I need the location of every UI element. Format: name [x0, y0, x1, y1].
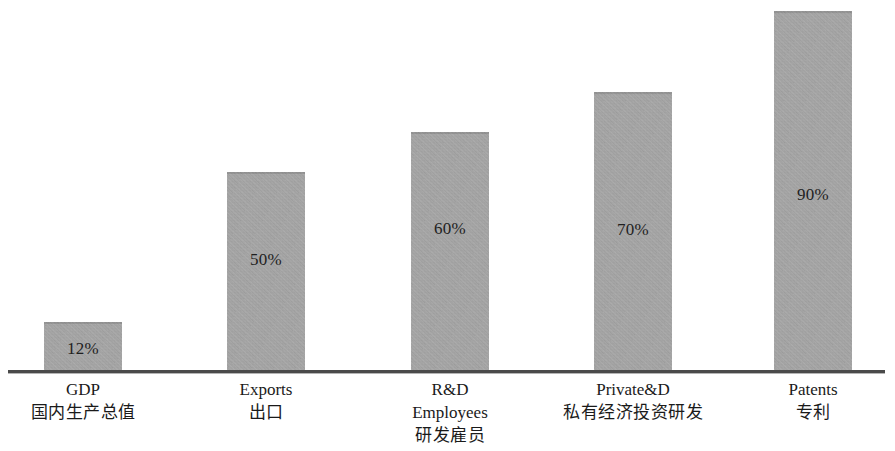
x-axis-baseline [8, 370, 885, 373]
category-label-patents-en: Patents [753, 378, 873, 401]
category-label-exports-zh: 出口 [206, 401, 326, 424]
bar-value-private-d: 70% [594, 221, 672, 238]
bar-gdp[interactable]: 12% [44, 322, 122, 372]
bar-chart: 12% 50% 60% 70% 90% GDP 国内生产总值 Exports 出… [0, 0, 895, 451]
bar-value-rd-employees: 60% [411, 220, 489, 237]
category-label-rd-employees-en: R&D [390, 378, 510, 401]
category-label-private-d: Private&D 私有经济投资研发 [558, 378, 708, 424]
category-label-rd-employees: R&D Employees 研发雇员 [390, 378, 510, 447]
category-label-private-d-zh: 私有经济投资研发 [558, 401, 708, 424]
category-label-private-d-en: Private&D [558, 378, 708, 401]
bar-rd-employees[interactable]: 60% [411, 132, 489, 372]
category-label-gdp-en: GDP [23, 378, 143, 401]
plot-area: 12% 50% 60% 70% 90% [0, 0, 895, 372]
category-label-patents-zh: 专利 [753, 401, 873, 424]
category-label-exports-en: Exports [206, 378, 326, 401]
category-label-rd-employees-zh: 研发雇员 [390, 424, 510, 447]
category-label-gdp: GDP 国内生产总值 [23, 378, 143, 424]
bar-exports[interactable]: 50% [227, 172, 305, 372]
category-label-exports: Exports 出口 [206, 378, 326, 424]
category-label-rd-employees-en-line2: Employees [390, 401, 510, 424]
category-labels: GDP 国内生产总值 Exports 出口 R&D Employees 研发雇员… [0, 378, 895, 451]
category-label-gdp-zh: 国内生产总值 [23, 401, 143, 424]
bar-patents[interactable]: 90% [774, 11, 852, 372]
bar-private-d[interactable]: 70% [594, 92, 672, 372]
category-label-patents: Patents 专利 [753, 378, 873, 424]
bar-value-exports: 50% [227, 251, 305, 268]
bar-value-patents: 90% [774, 186, 852, 203]
bar-value-gdp: 12% [44, 340, 122, 357]
